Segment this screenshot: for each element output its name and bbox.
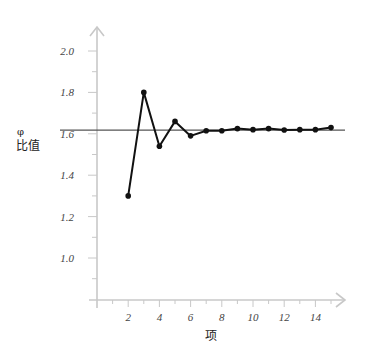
axes bbox=[89, 27, 345, 308]
data-point-marker bbox=[297, 127, 303, 133]
data-point-marker bbox=[141, 90, 147, 96]
x-tick-label: 4 bbox=[157, 311, 163, 323]
y-axis-symbol: φ bbox=[17, 127, 24, 137]
tick-labels: 1.01.21.41.61.82.02468101214 bbox=[60, 45, 321, 323]
x-tick-label: 12 bbox=[279, 311, 291, 323]
y-tick-label: 1.0 bbox=[60, 252, 74, 264]
chart-canvas: 1.01.21.41.61.82.02468101214 bbox=[0, 0, 365, 363]
x-tick-label: 2 bbox=[125, 311, 131, 323]
y-axis-title: 比值 bbox=[16, 140, 40, 152]
data-point-marker bbox=[219, 128, 225, 134]
data-point-marker bbox=[235, 126, 241, 132]
y-tick-label: 2.0 bbox=[60, 45, 74, 57]
data-point-marker bbox=[266, 126, 272, 132]
data-point-marker bbox=[172, 119, 178, 125]
data-point-marker bbox=[157, 143, 163, 149]
ratio-series bbox=[125, 90, 333, 199]
y-tick-label: 1.8 bbox=[60, 86, 74, 98]
data-point-marker bbox=[313, 127, 319, 133]
y-tick-label: 1.4 bbox=[60, 169, 74, 181]
data-point-marker bbox=[188, 133, 194, 139]
y-tick-label: 1.2 bbox=[60, 211, 74, 223]
data-point-marker bbox=[281, 127, 287, 133]
x-tick-label: 10 bbox=[248, 311, 260, 323]
x-axis-title: 项 bbox=[205, 330, 217, 342]
data-point-marker bbox=[125, 193, 131, 199]
x-tick-label: 8 bbox=[219, 311, 225, 323]
x-tick-label: 14 bbox=[310, 311, 322, 323]
x-tick-label: 6 bbox=[188, 311, 194, 323]
data-point-marker bbox=[328, 125, 334, 131]
data-point-marker bbox=[250, 127, 256, 133]
ticks bbox=[88, 51, 331, 307]
data-point-marker bbox=[203, 128, 209, 134]
